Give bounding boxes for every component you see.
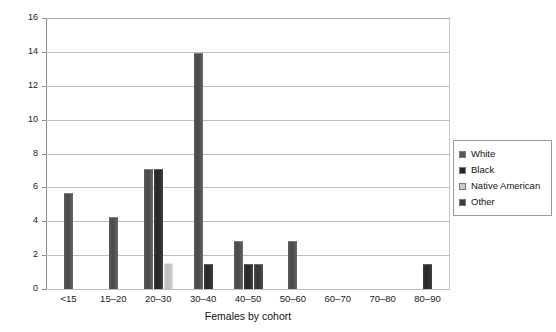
bar (204, 18, 213, 289)
bar-fill (144, 169, 153, 289)
bar-fill (288, 241, 297, 289)
legend-swatch-white-icon (459, 151, 466, 158)
x-axis-title: Females by cohort (46, 310, 450, 322)
y-tick-label-4: 4 (4, 216, 38, 225)
bar-fill (109, 217, 118, 289)
bar (254, 18, 263, 289)
legend-label-black: Black (471, 165, 494, 175)
bar-fill (234, 241, 243, 289)
bar (423, 18, 432, 289)
bar (64, 18, 73, 289)
bar (194, 18, 203, 289)
gridline-0 (46, 289, 450, 290)
bar (244, 18, 253, 289)
x-tick-label-8: 80–90 (398, 294, 458, 304)
y-tick-mark-0 (42, 289, 46, 290)
bars-layer (46, 18, 450, 289)
chart-legend: White Black Native American Other (453, 140, 552, 216)
legend-swatch-other-icon (459, 199, 466, 206)
bar-chart: 0246810121416 <1515–2020–3030–4040–5050–… (0, 0, 556, 332)
bar-fill (204, 264, 213, 289)
legend-item-black[interactable]: Black (459, 162, 547, 178)
y-tick-label-14: 14 (4, 47, 38, 56)
y-tick-label-16: 16 (4, 13, 38, 22)
legend-label-native-american: Native American (471, 181, 540, 191)
y-tick-label-8: 8 (4, 149, 38, 158)
legend-item-other[interactable]: Other (459, 194, 547, 210)
bar (234, 18, 243, 289)
legend-swatch-black-icon (459, 167, 466, 174)
legend-label-white: White (471, 149, 495, 159)
y-tick-label-10: 10 (4, 115, 38, 124)
bar-fill (154, 169, 163, 289)
bar-fill (244, 264, 253, 289)
y-tick-label-2: 2 (4, 250, 38, 259)
bar-fill (164, 263, 173, 289)
bar (164, 18, 173, 289)
y-tick-label-6: 6 (4, 182, 38, 191)
bar-fill (64, 193, 73, 289)
bar (154, 18, 163, 289)
bar-fill (254, 264, 263, 289)
bar (288, 18, 297, 289)
bar-fill (423, 264, 432, 289)
legend-label-other: Other (471, 197, 495, 207)
legend-item-white[interactable]: White (459, 146, 547, 162)
bar (144, 18, 153, 289)
bar-fill (194, 53, 203, 289)
bar (109, 18, 118, 289)
y-tick-label-0: 0 (4, 284, 38, 293)
legend-swatch-native-american-icon (459, 183, 466, 190)
legend-item-native-american[interactable]: Native American (459, 178, 547, 194)
y-tick-label-12: 12 (4, 81, 38, 90)
